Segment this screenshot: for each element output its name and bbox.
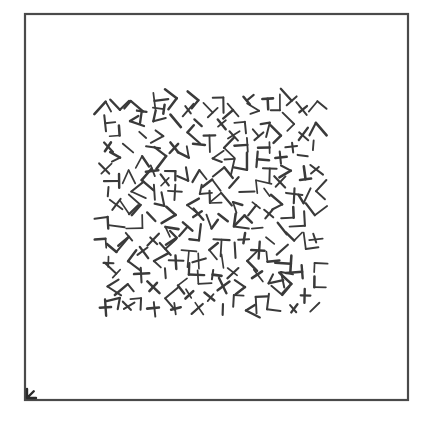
texton-segment [245,122,246,134]
texton-segment [281,218,294,219]
texton-segment [141,298,142,310]
texton-single-dash [165,268,166,278]
texton-segment [261,123,270,124]
texton-single-dash [235,242,236,257]
texton-single-dash [252,228,263,229]
texton-segment [315,263,328,264]
texton-segment [298,155,308,156]
figure-root [0,0,438,424]
texton-segment [256,296,268,297]
texton-segment [108,187,109,196]
texton-segment [275,157,286,158]
texton-segment [233,295,234,307]
texton-single-dash [108,187,109,196]
texton-single-dash [298,155,308,156]
texton-segment [234,295,244,296]
page-background [0,0,438,424]
texton-segment [189,239,199,240]
texton-segment [304,166,306,179]
texton-segment [110,136,120,137]
texton-segment [198,270,199,284]
texton-segment [119,126,120,136]
texton-segment [108,217,109,229]
texton-segment [268,99,269,110]
texton-segment [154,185,155,200]
texton-segment [275,263,291,264]
texton-segment [257,159,269,160]
texton-segment [234,214,236,227]
texton-segment [105,122,115,123]
texton-segment [234,145,247,146]
texton-segment [100,307,111,308]
texton-segment [313,141,314,151]
texton-segment [95,239,106,240]
texton-segment [130,298,141,299]
texton-single-dash [193,144,205,145]
texton-segment [198,283,211,284]
texton-segment [224,159,234,160]
texton-segment [304,211,305,225]
texton-segment [285,146,297,147]
texton-segment [213,275,222,276]
texton-segment [252,228,263,229]
texton-segment [147,308,159,309]
texton-segment [174,185,175,200]
texton-single-dash [154,185,155,200]
texton-segment [267,260,279,261]
texton-segment [193,144,205,145]
figure-canvas [0,0,438,424]
texton-segment [234,122,245,123]
texton-segment [243,233,245,243]
texton-segment [235,242,236,257]
texton-segment [266,252,267,262]
texton-segment [165,268,166,278]
texton-segment [294,188,295,203]
texton-segment [286,272,302,273]
texton-segment [189,275,204,276]
texton-segment [141,268,142,283]
texton-segment [292,143,293,153]
texton-segment [175,256,176,269]
texton-segment [251,250,264,251]
texton-single-dash [313,141,314,151]
texton-segment [290,226,305,227]
